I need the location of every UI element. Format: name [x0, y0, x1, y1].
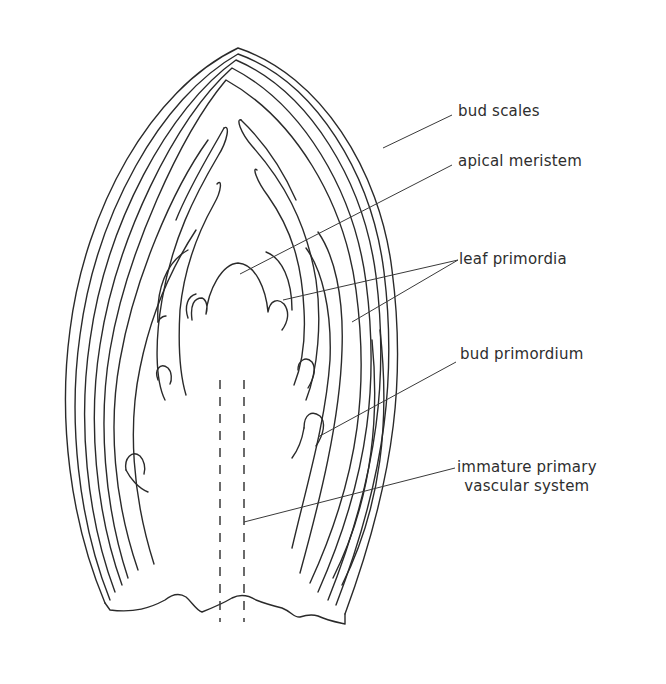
- bud-primordia-outlines: [126, 359, 324, 492]
- leader-apical-meristem: [240, 165, 452, 274]
- label-apical-meristem: apical meristem: [458, 152, 582, 171]
- bud-base-edge: [105, 595, 345, 624]
- label-bud-primordium: bud primordium: [460, 345, 583, 364]
- label-text-line-2: vascular system: [457, 477, 597, 496]
- bud-scales-outlines: [65, 48, 397, 614]
- leader-vascular-system: [244, 468, 455, 522]
- leader-leaf-primordia-1: [283, 260, 458, 300]
- label-leaf-primordia: leaf primordia: [459, 250, 567, 269]
- label-text: bud scales: [458, 102, 540, 120]
- label-text: bud primordium: [460, 345, 583, 363]
- label-text: leaf primordia: [459, 250, 567, 268]
- bud-drawing: [0, 0, 666, 684]
- label-immature-primary-vascular-system: immature primary vascular system: [457, 458, 597, 496]
- leader-bud-primordium: [318, 362, 456, 437]
- label-bud-scales: bud scales: [458, 102, 540, 121]
- young-leaves: [157, 120, 319, 400]
- label-text: apical meristem: [458, 152, 582, 170]
- label-text-line-1: immature primary: [457, 458, 597, 477]
- bud-section-diagram: bud scales apical meristem leaf primordi…: [0, 0, 666, 684]
- leader-leaf-primordia-2: [352, 260, 458, 322]
- vascular-strands: [220, 380, 244, 622]
- leader-lines: [240, 115, 458, 522]
- leader-bud-scales: [383, 115, 452, 148]
